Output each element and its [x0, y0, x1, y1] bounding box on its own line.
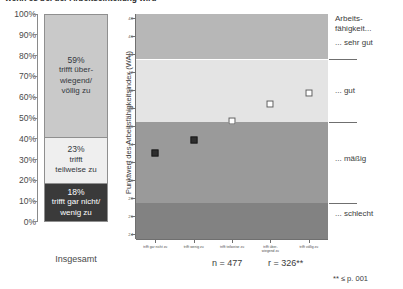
data-point-3[interactable]	[229, 118, 236, 125]
right-axis-tick	[131, 144, 135, 145]
segment-label-line2: wiegend/	[60, 76, 92, 87]
right-scatter-panel: Punktwert des Arbeitsfähigkeitsindex (WA…	[113, 0, 403, 289]
x-label-gar-nicht: trifft gar nicht zu	[133, 245, 177, 249]
left-axis-tick	[33, 34, 37, 35]
legend-label-maessig: ... mäßig	[335, 154, 366, 164]
right-axis-tick	[131, 72, 135, 73]
left-axis-tick	[33, 97, 37, 98]
stat-footnote: ** ≤ p. 001	[333, 274, 368, 283]
figure-root: wenn es bei der Arbeitseinteilung wird 1…	[0, 0, 403, 289]
right-x-tick	[270, 239, 271, 243]
right-axis-tick	[131, 54, 135, 55]
legend-rule-gut-maessig	[329, 122, 357, 123]
left-axis-tick	[33, 138, 37, 139]
data-point-4[interactable]	[267, 101, 274, 108]
right-axis-tick	[131, 180, 135, 181]
stat-n: n = 477	[212, 258, 242, 268]
x-label-ueberwiegend: trifft über- wiegend zu	[248, 245, 292, 253]
bar-segment-teilweise[interactable]: 23% trifft teilweise zu	[45, 137, 107, 184]
legend-label-schlecht: ... schlecht	[335, 209, 373, 219]
right-x-tick	[155, 239, 156, 243]
segment-percent: 18%	[67, 187, 84, 198]
data-point-2[interactable]	[190, 137, 197, 144]
bar-segment-gar-nicht-wenig[interactable]: 18% trifft gar nicht/ wenig zu	[45, 184, 107, 221]
x-label-voellig: trifft völlig zu	[287, 245, 331, 249]
left-axis-tick	[33, 221, 37, 222]
right-axis-tick	[131, 162, 135, 163]
left-axis-tick	[33, 76, 37, 77]
left-axis-tick	[33, 180, 37, 181]
left-axis-tick	[33, 201, 37, 202]
left-category-label: Insgesamt	[44, 254, 108, 264]
legend-label-gut: ... gut	[335, 86, 355, 96]
segment-label-line3: völlig zu	[62, 86, 91, 97]
segment-label-line1: trifft gar nicht/	[52, 197, 100, 208]
segment-percent: 59%	[67, 55, 84, 66]
band-schlecht	[136, 203, 328, 239]
legend-rule-maessig-schlecht	[329, 203, 357, 204]
right-axis-tick	[131, 108, 135, 109]
x-label-teilweise: trifft teilweise zu	[210, 245, 254, 249]
bar-segment-ueberwiegend-voellig[interactable]: 59% trifft über- wiegend/ völlig zu	[45, 15, 107, 137]
data-point-5[interactable]	[305, 90, 312, 97]
right-x-tick	[232, 239, 233, 243]
right-axis-tick	[131, 234, 135, 235]
stat-r: r = 326**	[268, 258, 303, 268]
left-stacked-bar-panel: 100% 90% 80% 70% 60% 50% 40% 30% 20% 10%…	[0, 0, 130, 289]
left-y-axis-labels: 100% 90% 80% 70% 60% 50% 40% 30% 20% 10%…	[3, 14, 36, 222]
segment-label-line2: wenig zu	[60, 208, 92, 219]
segment-label-line1: trifft	[69, 155, 82, 166]
right-axis-tick	[131, 216, 135, 217]
left-axis-tick	[33, 118, 37, 119]
segment-percent: 23%	[67, 144, 84, 155]
left-axis-tick	[33, 159, 37, 160]
stacked-bar: 59% trifft über- wiegend/ völlig zu 23% …	[44, 14, 108, 222]
right-x-tick	[194, 239, 195, 243]
x-label-wenig: trifft wenig zu	[172, 245, 216, 249]
band-gut	[136, 59, 328, 122]
right-axis-tick	[131, 126, 135, 127]
band-legend: Arbeits- fähigkeit... ... sehr gut ... g…	[329, 14, 401, 244]
left-axis-tick	[33, 55, 37, 56]
band-sehr-gut	[136, 14, 328, 59]
scatter-plot-area	[136, 14, 328, 239]
right-axis-tick	[131, 90, 135, 91]
left-y-axis-line	[37, 14, 38, 222]
segment-label-line1: trifft über-	[59, 65, 93, 76]
legend-label-sehr-gut: ... sehr gut	[335, 38, 373, 48]
left-y-tick-0: 0%	[24, 217, 36, 227]
segment-label-line2: teilweise zu	[55, 165, 96, 176]
right-axis-tick	[131, 198, 135, 199]
legend-header-line1: Arbeits-	[335, 14, 363, 24]
band-maessig	[136, 122, 328, 203]
right-x-tick	[309, 239, 310, 243]
left-axis-tick	[33, 14, 37, 15]
right-axis-tick	[131, 36, 135, 37]
right-axis-tick	[131, 18, 135, 19]
data-point-1[interactable]	[152, 149, 159, 156]
band-divider-sehrgut-gut	[136, 59, 328, 60]
legend-rule-sehrgut-gut	[329, 59, 357, 60]
legend-header-line2: fähigkeit...	[335, 24, 371, 34]
